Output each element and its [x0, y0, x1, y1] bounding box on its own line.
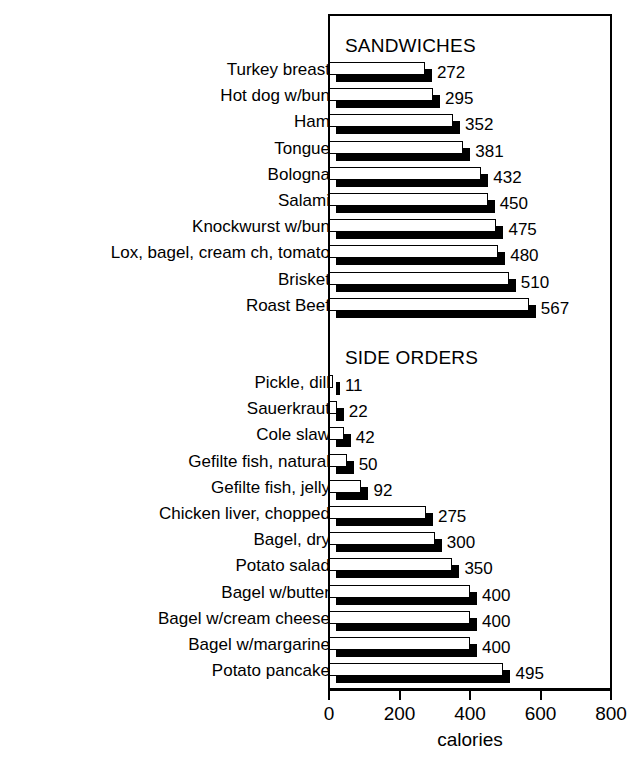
bar-face	[329, 114, 453, 127]
bar	[329, 245, 505, 265]
category-label: Ham	[0, 113, 330, 130]
bar	[329, 193, 495, 213]
bar	[329, 375, 340, 395]
bar-face	[329, 167, 481, 180]
category-label: Bagel w/margarine	[0, 636, 330, 653]
bar-value-label: 400	[482, 613, 510, 630]
x-tick-label: 800	[571, 703, 643, 725]
x-tick	[610, 689, 612, 700]
category-label: Roast Beef	[0, 297, 330, 314]
bar	[329, 558, 459, 578]
bar-value-label: 495	[515, 665, 543, 682]
bar-value-label: 42	[356, 429, 375, 446]
x-tick-label: 600	[501, 703, 581, 725]
calorie-bar-chart: SANDWICHES SIDE ORDERS Turkey breast272H…	[0, 0, 643, 759]
bar-shadow	[336, 382, 340, 395]
bar-face	[329, 245, 498, 258]
category-label: Gefilte fish, jelly	[0, 479, 330, 496]
bar-value-label: 510	[521, 274, 549, 291]
bar-value-label: 381	[475, 143, 503, 160]
bar-value-label: 295	[445, 90, 473, 107]
category-label: Bagel, dry	[0, 531, 330, 548]
bar-face	[329, 558, 452, 571]
category-label: Bagel w/butter	[0, 584, 330, 601]
bar-face	[329, 375, 333, 388]
bar-face	[329, 427, 344, 440]
bar	[329, 167, 488, 187]
bar-face	[329, 454, 347, 467]
bar	[329, 427, 351, 447]
bar-value-label: 480	[510, 247, 538, 264]
bar	[329, 611, 477, 631]
category-label: Salami	[0, 192, 330, 209]
bar	[329, 62, 432, 82]
bar-face	[329, 193, 488, 206]
bar-face	[329, 219, 496, 232]
category-label: Pickle, dill	[0, 374, 330, 391]
bar-value-label: 272	[437, 64, 465, 81]
category-label: Tongue	[0, 140, 330, 157]
bar-face	[329, 506, 426, 519]
category-label: Knockwurst w/bun	[0, 218, 330, 235]
bar	[329, 141, 470, 161]
category-label: Bologna	[0, 166, 330, 183]
bar-value-label: 22	[349, 403, 368, 420]
bar-value-label: 400	[482, 639, 510, 656]
category-label: Potato pancake	[0, 662, 330, 679]
bar	[329, 114, 460, 134]
bar-value-label: 475	[508, 221, 536, 238]
x-tick	[540, 689, 542, 700]
x-tick-label: 200	[360, 703, 440, 725]
bar-value-label: 300	[447, 534, 475, 551]
bar-face	[329, 637, 470, 650]
x-tick-label: 400	[430, 703, 510, 725]
bar-face	[329, 272, 509, 285]
bar-shadow	[336, 408, 344, 421]
bar-face	[329, 141, 463, 154]
bar	[329, 637, 477, 657]
bar-value-label: 350	[464, 560, 492, 577]
category-label: Chicken liver, chopped	[0, 505, 330, 522]
section-title-sandwiches: SANDWICHES	[345, 35, 476, 57]
bar-face	[329, 62, 425, 75]
bar-face	[329, 611, 470, 624]
category-label: Gefilte fish, natural	[0, 453, 330, 470]
bar-face	[329, 88, 433, 101]
bar-face	[329, 480, 361, 493]
bar-value-label: 92	[373, 482, 392, 499]
category-label: Turkey breast	[0, 61, 330, 78]
category-label: Lox, bagel, cream ch, tomato	[0, 244, 330, 261]
bar-face	[329, 298, 529, 311]
category-label: Potato salad	[0, 557, 330, 574]
category-label: Brisket	[0, 271, 330, 288]
category-label: Cole slaw	[0, 426, 330, 443]
bar	[329, 88, 440, 108]
section-title-side-orders: SIDE ORDERS	[345, 347, 478, 369]
bar	[329, 272, 516, 292]
x-tick	[469, 689, 471, 700]
bar	[329, 480, 368, 500]
bar-value-label: 11	[345, 377, 363, 394]
x-tick-label: 0	[289, 703, 369, 725]
bar-face	[329, 532, 435, 545]
bar-value-label: 352	[465, 116, 493, 133]
bar-face	[329, 585, 470, 598]
category-label: Bagel w/cream cheese	[0, 610, 330, 627]
bar	[329, 663, 510, 683]
bar	[329, 454, 354, 474]
bar	[329, 219, 503, 239]
bar-value-label: 275	[438, 508, 466, 525]
bar-value-label: 450	[500, 195, 528, 212]
bar-value-label: 50	[359, 456, 378, 473]
bar-value-label: 567	[541, 300, 569, 317]
bar-face	[329, 401, 337, 414]
bar	[329, 532, 442, 552]
bar-face	[329, 663, 503, 676]
bar	[329, 298, 536, 318]
bar	[329, 401, 344, 421]
bar	[329, 506, 433, 526]
x-tick	[399, 689, 401, 700]
bar-value-label: 432	[493, 169, 521, 186]
category-label: Sauerkraut	[0, 400, 330, 417]
category-label: Hot dog w/bun	[0, 87, 330, 104]
